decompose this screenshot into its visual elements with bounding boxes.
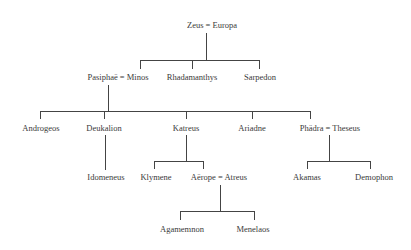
connector-line	[40, 111, 311, 112]
connector-line	[370, 161, 371, 169]
connector-line	[307, 161, 308, 169]
node-agamemnon: Agamemnon	[160, 224, 204, 234]
connector-line	[105, 135, 106, 170]
node-menelaos: Menelaos	[236, 224, 269, 234]
connector-line	[206, 33, 207, 60]
connector-line	[104, 111, 105, 119]
connector-line	[140, 60, 141, 69]
connector-line	[203, 161, 204, 169]
connector-line	[254, 211, 255, 220]
connector-line	[192, 60, 193, 69]
node-zeus-europa: Zeus = Europa	[187, 20, 237, 30]
connector-line	[154, 161, 204, 162]
connector-line	[140, 60, 260, 61]
connector-line	[307, 161, 371, 162]
node-aerope-atreus: Aërope = Atreus	[191, 172, 247, 182]
node-phadra-theseus: Phädra = Theseus	[300, 123, 360, 133]
node-klymene: Klymene	[140, 172, 171, 182]
node-sarpedon: Sarpedon	[244, 72, 276, 82]
node-androgeos: Androgeos	[22, 123, 59, 133]
connector-line	[180, 211, 255, 212]
node-demophon: Demophon	[355, 172, 393, 182]
node-rhadamanthys: Rhadamanthys	[167, 72, 218, 82]
connector-line	[259, 60, 260, 69]
node-katreus: Katreus	[173, 123, 199, 133]
connector-line	[329, 135, 330, 161]
connector-line	[186, 135, 187, 161]
connector-line	[180, 211, 181, 220]
connector-line	[108, 85, 109, 111]
node-akamas: Akamas	[293, 172, 321, 182]
node-ariadne: Ariadne	[238, 123, 265, 133]
connector-line	[252, 111, 253, 119]
node-idomeneus: Idomeneus	[87, 172, 124, 182]
connector-line	[310, 111, 311, 119]
node-deukalion: Deukalion	[86, 123, 121, 133]
connector-line	[186, 111, 187, 119]
node-pasiphae-minos: Pasiphaë = Minos	[88, 72, 149, 82]
connector-line	[154, 161, 155, 169]
connector-line	[220, 185, 221, 211]
connector-line	[40, 111, 41, 119]
